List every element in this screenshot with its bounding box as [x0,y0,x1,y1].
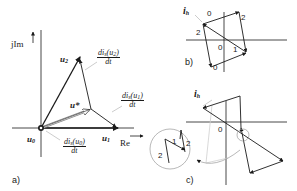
label-ih-c: ih [194,89,200,99]
b-label-1: 1 [233,46,237,54]
label-u1: u1 [102,134,110,143]
c-inset-label-2-left: 2 [158,152,162,160]
panel-c [150,96,287,185]
b-label-0-top: 0 [207,10,211,18]
label-derivative-u2: dis(u2) dt [97,49,120,67]
b-segment-2-left [203,24,211,67]
c-segment-bottom [250,161,283,173]
diagram-canvas [0,0,297,191]
c-inset-label-2-right: 2 [186,140,190,148]
axis-label-imag: jIm [11,40,24,49]
b-label-2-left: 2 [196,29,200,37]
caption-a: a) [12,176,20,185]
c-segment-diagonal [203,108,283,161]
b-segment-diagonal [203,24,246,52]
axis-label-real: Re [120,139,130,148]
label-ih-b: ih [183,6,189,16]
caption-c: c) [186,176,194,185]
b-label-0-bottom: 0 [213,64,217,72]
vector-u2 [41,57,80,128]
c-zoom-arrow-icon [197,150,240,163]
caption-b: b) [185,58,193,67]
b-label-2-right: 2 [241,14,245,22]
b-label-origin: 0 [218,44,222,52]
label-u0: u0 [27,135,35,144]
panel-b [186,12,287,72]
label-u2: u2 [60,55,68,64]
c-label-origin: 0 [218,126,222,134]
c-inset-label-1: 1 [172,138,176,146]
label-derivative-u1: dis(u1) dt [121,92,144,110]
label-derivative-u0: dis(u0) dt [63,138,86,156]
label-ustar: u* [70,101,80,110]
